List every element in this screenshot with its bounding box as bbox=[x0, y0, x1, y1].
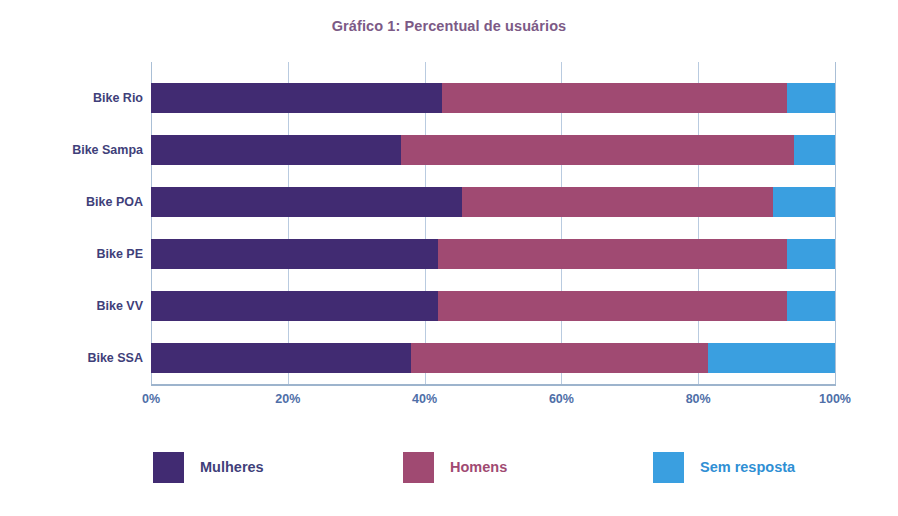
y-axis-label-bike-rio: Bike Rio bbox=[13, 83, 143, 113]
legend-label-sem-resposta: Sem resposta bbox=[700, 459, 795, 475]
bar-segment-homens bbox=[438, 291, 787, 321]
bar-segment-sem-resposta bbox=[773, 187, 835, 217]
x-axis-tick-20pct: 20% bbox=[275, 392, 300, 406]
chart-title: Gráfico 1: Percentual de usuários bbox=[0, 18, 898, 34]
bar-segment-mulheres bbox=[151, 343, 411, 373]
bar-segment-mulheres bbox=[151, 291, 438, 321]
stacked-bar-chart: Gráfico 1: Percentual de usuários Bike R… bbox=[0, 0, 898, 516]
legend-swatch-sem-resposta bbox=[653, 452, 684, 483]
bar-segment-mulheres bbox=[151, 187, 462, 217]
bar-segment-homens bbox=[411, 343, 709, 373]
x-axis-tick-40pct: 40% bbox=[412, 392, 437, 406]
bar-segment-mulheres bbox=[151, 239, 438, 269]
legend-label-mulheres: Mulheres bbox=[200, 459, 264, 475]
gridline-100pct bbox=[835, 62, 836, 384]
y-axis-category-labels: Bike RioBike SampaBike POABike PEBike VV… bbox=[5, 62, 143, 384]
bar-row bbox=[151, 239, 835, 269]
y-axis-label-bike-pe: Bike PE bbox=[13, 239, 143, 269]
y-axis-label-bike-poa: Bike POA bbox=[13, 187, 143, 217]
plot-area bbox=[151, 62, 835, 384]
bar-segment-sem-resposta bbox=[787, 239, 835, 269]
legend-label-homens: Homens bbox=[450, 459, 507, 475]
legend-item-sem-resposta[interactable]: Sem resposta bbox=[653, 450, 795, 484]
x-axis-tick-60pct: 60% bbox=[549, 392, 574, 406]
bar-row bbox=[151, 291, 835, 321]
y-axis-label-bike-ssa: Bike SSA bbox=[13, 343, 143, 373]
legend-swatch-mulheres bbox=[153, 452, 184, 483]
bar-row bbox=[151, 343, 835, 373]
x-axis-tick-80pct: 80% bbox=[686, 392, 711, 406]
bar-segment-sem-resposta bbox=[794, 135, 835, 165]
bar-segment-homens bbox=[462, 187, 773, 217]
legend-swatch-homens bbox=[403, 452, 434, 483]
bar-row bbox=[151, 135, 835, 165]
bar-segment-sem-resposta bbox=[708, 343, 835, 373]
legend-item-homens[interactable]: Homens bbox=[403, 450, 507, 484]
y-axis-label-bike-sampa: Bike Sampa bbox=[13, 135, 143, 165]
bar-segment-homens bbox=[442, 83, 787, 113]
bar-row bbox=[151, 187, 835, 217]
chart-legend: MulheresHomensSem resposta bbox=[0, 450, 898, 492]
bar-segment-homens bbox=[401, 135, 794, 165]
bar-segment-mulheres bbox=[151, 83, 442, 113]
legend-item-mulheres[interactable]: Mulheres bbox=[153, 450, 264, 484]
bar-segment-mulheres bbox=[151, 135, 401, 165]
bar-segment-sem-resposta bbox=[787, 291, 835, 321]
bar-segment-sem-resposta bbox=[787, 83, 835, 113]
x-axis-tick-labels: 0%20%40%60%80%100% bbox=[151, 392, 835, 414]
bar-segment-homens bbox=[438, 239, 787, 269]
bar-row bbox=[151, 83, 835, 113]
y-axis-label-bike-vv: Bike VV bbox=[13, 291, 143, 321]
x-axis-tick-0pct: 0% bbox=[142, 392, 160, 406]
x-axis-baseline bbox=[151, 384, 836, 386]
x-axis-tick-100pct: 100% bbox=[819, 392, 851, 406]
